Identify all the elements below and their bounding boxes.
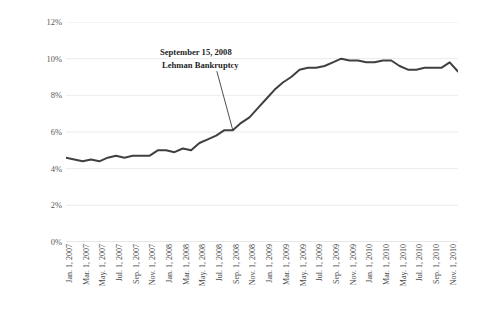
x-axis-tick-label: Jan. 1, 2008: [166, 205, 174, 244]
x-axis-tick-label: Jul. 1, 2007: [116, 207, 124, 244]
x-axis-tick-label: Mar. 1, 2007: [83, 203, 91, 244]
y-axis-tick-label: 6%: [34, 128, 62, 137]
x-axis-tick-label: May. 1, 2007: [99, 202, 107, 244]
x-axis-tick-label-text: Sep. 1, 2009: [333, 244, 341, 284]
x-axis-tick-label-text: Mar. 1, 2008: [183, 244, 191, 285]
x-axis-tick-label: Mar. 1, 2008: [183, 203, 191, 244]
x-axis-tick-label: Nov. 1, 2007: [149, 203, 157, 244]
x-axis-tick-label-text: Jan. 1, 2008: [166, 244, 174, 283]
x-axis-tick-label: Sep. 1, 2009: [333, 204, 341, 244]
x-axis-tick-label: Sep. 1, 2007: [133, 204, 141, 244]
x-axis-tick-label-text: Jul. 1, 2009: [316, 244, 324, 281]
x-axis-tick-label: Nov. 1, 2010: [450, 203, 458, 244]
y-axis-tick-labels: 0%2%4%6%8%10%12%: [34, 0, 62, 317]
x-axis-tick-label: Nov. 1, 2009: [350, 203, 358, 244]
x-axis-tick-label-text: May. 1, 2009: [300, 244, 308, 286]
x-axis-tick-label-text: Sep. 1, 2010: [433, 244, 441, 284]
y-axis-tick-label: 12%: [34, 18, 62, 27]
x-axis-tick-label: Jul. 1, 2009: [316, 207, 324, 244]
x-axis-tick-label: May. 1, 2010: [400, 202, 408, 244]
x-axis-tick-label: May. 1, 2009: [300, 202, 308, 244]
x-axis-tick-label-text: Mar. 1, 2010: [383, 244, 391, 285]
x-axis-tick-label-text: Sep. 1, 2008: [233, 244, 241, 284]
x-axis-tick-label-text: Jul. 1, 2008: [216, 244, 224, 281]
x-axis-tick-label: Jul. 1, 2008: [216, 207, 224, 244]
x-axis-tick-label-text: Jul. 1, 2007: [116, 244, 124, 281]
y-axis-tick-label: 0%: [34, 238, 62, 247]
x-axis-tick-label-text: May. 1, 2007: [99, 244, 107, 286]
y-axis-tick-label: 8%: [34, 91, 62, 100]
x-axis-tick-label-text: Jul. 1, 2010: [416, 244, 424, 281]
x-axis-tick-label-text: Mar. 1, 2009: [283, 244, 291, 285]
x-axis-tick-label: Sep. 1, 2010: [433, 204, 441, 244]
x-axis-tick-label: Nov. 1, 2008: [249, 203, 257, 244]
x-axis-tick-label: May. 1, 2008: [199, 202, 207, 244]
x-axis-tick-label-text: May. 1, 2008: [199, 244, 207, 286]
x-axis-tick-label-text: Mar. 1, 2007: [83, 244, 91, 285]
x-axis-tick-labels: Jan. 1, 2007Mar. 1, 2007May. 1, 2007Jul.…: [66, 244, 458, 317]
x-axis-tick-label-text: May. 1, 2010: [400, 244, 408, 286]
y-axis-tick-label: 4%: [34, 164, 62, 173]
unemployment-rate-line: [66, 59, 458, 162]
x-axis-tick-label-text: Nov. 1, 2010: [450, 244, 458, 285]
x-axis-tick-label: Jan. 1, 2007: [66, 205, 74, 244]
x-axis-tick-label-text: Jan. 1, 2010: [366, 244, 374, 283]
x-axis-tick-label-text: Nov. 1, 2008: [249, 244, 257, 285]
y-axis-tick-label: 10%: [34, 54, 62, 63]
x-axis-tick-label-text: Sep. 1, 2007: [133, 244, 141, 284]
x-axis-tick-label-text: Jan. 1, 2009: [266, 244, 274, 283]
x-axis-tick-label: Sep. 1, 2008: [233, 204, 241, 244]
x-axis-tick-label-text: Jan. 1, 2007: [66, 244, 74, 283]
annotation-leader-line: [217, 71, 233, 130]
y-axis-tick-label: 2%: [34, 201, 62, 210]
x-axis-tick-label: Mar. 1, 2010: [383, 203, 391, 244]
x-axis-tick-label: Mar. 1, 2009: [283, 203, 291, 244]
x-axis-tick-label: Jul. 1, 2010: [416, 207, 424, 244]
x-axis-tick-label: Jan. 1, 2010: [366, 205, 374, 244]
x-axis-tick-label-text: Nov. 1, 2009: [350, 244, 358, 285]
x-axis-tick-label-text: Nov. 1, 2007: [149, 244, 157, 285]
x-axis-tick-label: Jan. 1, 2009: [266, 205, 274, 244]
unemployment-rate-line-chart: Unemployment Rate 0%2%4%6%8%10%12% Septe…: [0, 0, 478, 317]
